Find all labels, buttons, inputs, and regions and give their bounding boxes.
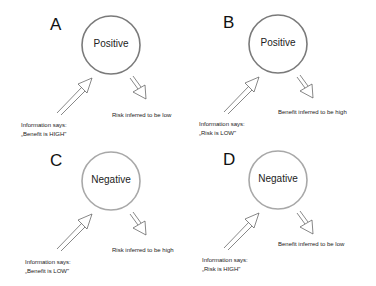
info-line1-c: Information says:: [25, 258, 71, 266]
info-line1-b: Information says:: [199, 120, 245, 128]
incoming-arrow-icon: [57, 78, 92, 115]
panel-label-a: A: [50, 15, 61, 35]
circle-valence-c: Negative: [81, 174, 141, 185]
circle-valence-d: Negative: [248, 173, 308, 184]
circle-valence-a: Positive: [81, 38, 141, 49]
info-line1-a: Information says:: [21, 121, 67, 129]
outgoing-arrow-icon: [297, 211, 313, 234]
info-line1-d: Information says:: [202, 256, 248, 264]
panel-label-c: C: [50, 151, 62, 171]
panel-b-graphics: [224, 15, 313, 114]
outgoing-arrow-icon: [297, 75, 313, 98]
inference-text-b: Benefit inferred to be high: [278, 108, 347, 116]
incoming-arrow-icon: [57, 214, 92, 251]
info-line2-d: „Risk is HIGH": [202, 265, 240, 273]
panel-a-graphics: [57, 16, 146, 115]
inference-text-c: Risk inferred to be high: [112, 246, 174, 254]
inference-text-a: Risk inferred to be low: [112, 111, 171, 119]
info-line2-b: „Risk is LOW": [199, 129, 236, 137]
panel-label-d: D: [223, 150, 235, 170]
panel-label-b: B: [223, 13, 234, 33]
panel-d-graphics: [224, 151, 313, 250]
info-line2-c: „Benefit is LOW": [25, 267, 69, 275]
incoming-arrow-icon: [224, 213, 259, 250]
panel-c-graphics: [57, 152, 146, 251]
outgoing-arrow-icon: [130, 212, 146, 235]
inference-text-d: Benefit inferred to be low: [278, 240, 344, 248]
info-line2-a: „Benefit is HIGH": [21, 130, 66, 138]
incoming-arrow-icon: [224, 77, 259, 114]
outgoing-arrow-icon: [130, 76, 146, 99]
circle-valence-b: Positive: [248, 37, 308, 48]
